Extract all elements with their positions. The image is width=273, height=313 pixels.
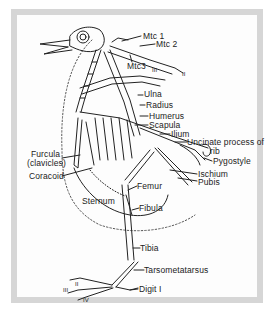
- label-clavicles: (clavicles): [27, 159, 66, 168]
- label-mtc2: Mtc 2: [156, 40, 177, 49]
- label-wing-digit-ii: II: [182, 70, 186, 79]
- label-pubis: Pubis: [198, 178, 220, 187]
- label-uncinate-process: Uncinate process of: [187, 138, 264, 147]
- label-ulna: Ulna: [144, 90, 162, 99]
- label-sternum: Sternum: [82, 197, 115, 206]
- label-wing-digit-iii: III: [152, 66, 157, 75]
- label-digit-1: Digit I: [139, 285, 161, 294]
- label-pygostyle: Pygostyle: [213, 157, 251, 166]
- label-femur: Femur: [137, 182, 162, 191]
- label-radius: Radius: [146, 101, 173, 110]
- label-fibula: Fibula: [139, 204, 163, 213]
- label-foot-digit-ii: II: [75, 280, 79, 289]
- label-foot-digit-iii: III: [63, 286, 68, 295]
- label-mtc3: Mtc3: [127, 62, 146, 71]
- label-uncinate-rib: rib: [210, 147, 220, 156]
- label-tarsometatarsus: Tarsometatarsus: [144, 266, 208, 275]
- label-tibia: Tibia: [140, 244, 159, 253]
- label-foot-digit-iv: IV: [83, 296, 89, 305]
- label-coracoid: Coracoid: [29, 172, 64, 181]
